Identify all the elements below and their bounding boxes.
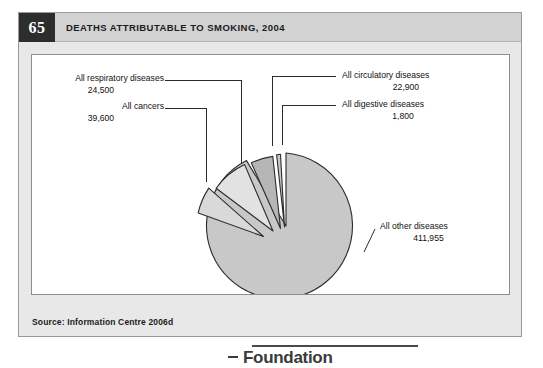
label-respiratory-name: All respiratory diseases [38, 73, 164, 85]
label-respiratory-value: 24,500 [38, 85, 164, 97]
watermark-text: Foundation [243, 348, 333, 368]
leader-line-cancers [165, 108, 206, 182]
label-other-value: 411,955 [380, 233, 477, 245]
label-digestive-value: 1,800 [342, 111, 464, 123]
label-other-name: All other diseases [380, 221, 500, 233]
watermark-rule [252, 345, 418, 347]
label-circulatory: All circulatory diseases 22,900 [342, 70, 492, 93]
leader-line-other [364, 229, 375, 252]
leader-line-digestive [282, 105, 336, 145]
figure-title: DEATHS ATTRIBUTABLE TO SMOKING, 2004 [66, 13, 285, 42]
label-respiratory: All respiratory diseases 24,500 [38, 73, 164, 96]
watermark-dash [228, 356, 238, 358]
figure-source: Source: Information Centre 2006d [32, 317, 173, 327]
label-cancers: All cancers 39,600 [38, 101, 164, 124]
label-circulatory-name: All circulatory diseases [342, 70, 492, 82]
leader-line-respiratory [165, 80, 241, 166]
label-cancers-value: 39,600 [38, 113, 164, 125]
figure-header-band: 65 DEATHS ATTRIBUTABLE TO SMOKING, 2004 [19, 13, 521, 42]
figure-number-badge: 65 [19, 13, 55, 42]
label-digestive: All digestive diseases 1,800 [342, 99, 492, 122]
label-circulatory-value: 22,900 [342, 82, 470, 94]
label-digestive-name: All digestive diseases [342, 99, 492, 111]
label-cancers-name: All cancers [38, 101, 164, 113]
chart-plot-panel: All respiratory diseases 24,500 All canc… [31, 54, 510, 295]
figure-container: 65 DEATHS ATTRIBUTABLE TO SMOKING, 2004 [18, 12, 522, 337]
label-other: All other diseases 411,955 [380, 221, 500, 244]
